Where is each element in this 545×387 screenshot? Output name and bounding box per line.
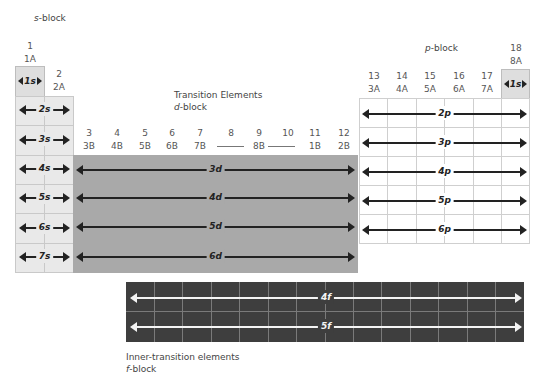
- arrow-right-icon: [63, 193, 70, 203]
- arrow-right-icon: [63, 252, 70, 262]
- orbital-label: 4f: [318, 290, 334, 304]
- orbital-label: 6s: [36, 220, 54, 234]
- arrow-right-icon: [63, 135, 70, 145]
- orbital-label: 5p: [435, 193, 454, 207]
- arrow-right-icon: [63, 164, 70, 174]
- arrow-left-icon: [19, 164, 26, 174]
- orbital-arrow-2p: 2p: [362, 109, 527, 119]
- orbital-arrow-3d: 3d: [76, 165, 355, 175]
- arrow-left-icon: [362, 109, 369, 119]
- s-block-label: s-block: [34, 13, 66, 23]
- arrow-right-icon: [348, 165, 355, 175]
- s-cell-1s: 1s: [15, 66, 45, 97]
- arrow-left-icon: [130, 293, 137, 303]
- orbital-arrow-6p: 6p: [362, 225, 527, 235]
- arrow-right-icon: [63, 223, 70, 233]
- group-old-label: 2A: [45, 81, 73, 94]
- arrow-left-icon: [362, 225, 369, 235]
- group-5-header: 55B: [131, 127, 159, 153]
- arrow-left-icon: [130, 322, 137, 332]
- group-16-header: 166A: [445, 70, 473, 96]
- orbital-label: 2s: [36, 102, 54, 116]
- group-number: 1: [16, 40, 44, 53]
- group-4-header: 44B: [103, 127, 131, 153]
- orbital-arrow-6s: 6s: [19, 223, 70, 233]
- f-block-heading: Inner-transition elements f-block: [126, 351, 240, 375]
- group-15-header: 155A: [416, 70, 444, 96]
- orbital-arrow-4s: 4s: [19, 164, 70, 174]
- arrow-left-icon: [76, 165, 83, 175]
- orbital-arrow-3s: 3s: [19, 135, 70, 145]
- p-block-label: p-block: [425, 43, 458, 53]
- inner-transition-title: Inner-transition elements: [126, 351, 240, 363]
- orbital-arrow-5d: 5d: [76, 222, 355, 232]
- group-8-header: 8: [217, 127, 245, 140]
- arrow-left-icon: [504, 80, 509, 88]
- arrow-left-icon: [19, 252, 26, 262]
- arrow-right-icon: [520, 109, 527, 119]
- orbital-label: 6d: [206, 249, 225, 263]
- orbital-label: 5s: [36, 190, 54, 204]
- group-1-header: 1 1A: [16, 40, 44, 66]
- arrow-left-icon: [19, 223, 26, 233]
- orbital-arrow-2s: 2s: [19, 105, 70, 115]
- group-8b-span-line-right: [268, 146, 295, 147]
- arrow-right-icon: [63, 105, 70, 115]
- orbital-label: 3d: [206, 162, 225, 176]
- group-14-header: 144A: [388, 70, 416, 96]
- arrow-right-icon: [520, 138, 527, 148]
- he-cell-1s: 1s: [501, 69, 530, 99]
- arrow-left-icon: [76, 222, 83, 232]
- group-2-header: 2 2A: [45, 68, 73, 94]
- arrow-left-icon: [19, 193, 26, 203]
- arrow-right-icon: [520, 225, 527, 235]
- group-6-header: 66B: [158, 127, 186, 153]
- group-7-header: 77B: [186, 127, 214, 153]
- transition-elements-title: Transition Elements: [174, 89, 262, 101]
- group-old-label: 1A: [16, 53, 44, 66]
- orbital-label: 5d: [206, 219, 225, 233]
- group-11-header: 111B: [301, 127, 329, 153]
- d-block-heading: Transition Elements d-block: [174, 89, 262, 113]
- orbital-arrow-5s: 5s: [19, 193, 70, 203]
- group-10-header: 10: [274, 127, 302, 140]
- arrow-right-icon: [348, 222, 355, 232]
- orbital-arrow-5f: 5f: [130, 322, 522, 332]
- orbital-arrow-6d: 6d: [76, 252, 355, 262]
- arrow-right-icon: [522, 80, 527, 88]
- arrow-right-icon: [520, 196, 527, 206]
- arrow-left-icon: [19, 135, 26, 145]
- group-17-header: 177A: [473, 70, 501, 96]
- arrow-left-icon: [362, 167, 369, 177]
- group-9-header: 98B: [245, 127, 273, 153]
- group-13-header: 133A: [360, 70, 388, 96]
- orbital-arrow-4f: 4f: [130, 293, 522, 303]
- orbital-arrow-5p: 5p: [362, 196, 527, 206]
- arrow-left-icon: [362, 138, 369, 148]
- arrow-left-icon: [19, 105, 26, 115]
- group-number: 2: [45, 68, 73, 81]
- orbital-arrow-4p: 4p: [362, 167, 527, 177]
- arrow-right-icon: [515, 322, 522, 332]
- d-block-label: d-block: [174, 101, 262, 113]
- orbital-arrow-7s: 7s: [19, 252, 70, 262]
- group-8b-span-line-left: [217, 146, 244, 147]
- orbital-label: 3p: [435, 135, 454, 149]
- orbital-1s: 1s: [16, 75, 44, 86]
- arrow-left-icon: [76, 193, 83, 203]
- arrow-left-icon: [362, 196, 369, 206]
- orbital-arrow-3p: 3p: [362, 138, 527, 148]
- arrow-right-icon: [515, 293, 522, 303]
- arrow-right-icon: [348, 252, 355, 262]
- orbital-arrow-4d: 4d: [76, 193, 355, 203]
- arrow-right-icon: [520, 167, 527, 177]
- f-block-label: f-block: [126, 363, 240, 375]
- group-18-header: 188A: [502, 42, 530, 68]
- orbital-1s: 1s: [502, 78, 529, 89]
- orbital-label: 7s: [36, 249, 54, 263]
- orbital-label: 2p: [435, 106, 454, 120]
- orbital-label: 4s: [36, 161, 54, 175]
- arrow-right-icon: [348, 193, 355, 203]
- s-block-suffix: -block: [39, 13, 66, 23]
- orbital-label: 5f: [318, 319, 334, 333]
